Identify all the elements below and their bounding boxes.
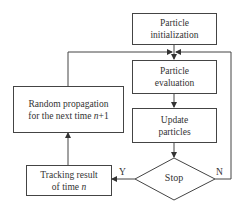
- evaluation-line1: Particle: [160, 65, 189, 77]
- update-line1: Update: [161, 114, 188, 126]
- propagation-suffix: +1: [99, 111, 109, 121]
- init-line1: Particle: [160, 17, 189, 29]
- tracking-line1: Tracking result: [40, 169, 97, 181]
- tracking-line2: of time n: [52, 181, 86, 193]
- evaluation-line2: evaluation: [155, 77, 195, 89]
- tracking-line2-prefix: of time: [52, 182, 82, 192]
- random-propagation-box: Random propagation for the next time n+1: [13, 86, 124, 133]
- update-particles-box: Update particles: [132, 108, 217, 143]
- flowchart: Particle initialization Particle evaluat…: [0, 0, 243, 207]
- no-label: N: [216, 167, 223, 177]
- propagation-line2-prefix: for the next time: [28, 111, 93, 121]
- stop-label: Stop: [150, 172, 198, 183]
- update-line2: particles: [158, 126, 190, 138]
- yes-label: Y: [119, 167, 126, 177]
- particle-initialization-box: Particle initialization: [132, 13, 217, 45]
- particle-evaluation-box: Particle evaluation: [132, 60, 217, 94]
- init-line2: initialization: [150, 29, 198, 41]
- tracking-var: n: [81, 182, 86, 192]
- tracking-result-box: Tracking result of time n: [26, 165, 112, 196]
- propagation-line2: for the next time n+1: [28, 110, 108, 122]
- propagation-line1: Random propagation: [29, 98, 109, 110]
